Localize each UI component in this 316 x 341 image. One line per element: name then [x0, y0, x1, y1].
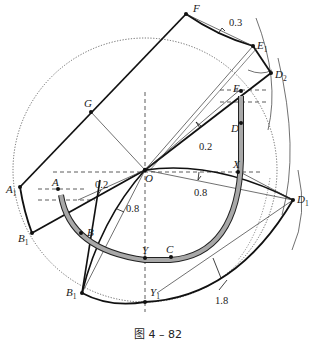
dim-leader-1-8 — [213, 258, 227, 290]
point-y1 — [143, 300, 147, 304]
label-y1: Y1 — [150, 286, 160, 301]
dim-0-2-upper: 0.2 — [199, 141, 212, 152]
line-g-o — [91, 112, 145, 170]
point-c — [169, 255, 173, 259]
point-b1-left — [30, 231, 34, 235]
label-y: Y — [142, 244, 150, 256]
line-o-d1 — [145, 170, 293, 200]
label-x: X — [232, 158, 241, 170]
dim-0-3: 0.3 — [229, 17, 242, 28]
point-e1 — [251, 44, 255, 48]
dim-leader-0-8-left — [117, 209, 124, 212]
edge-b1-o — [32, 170, 145, 233]
line-a-o — [78, 170, 145, 200]
dim-1-8: 1.8 — [215, 295, 228, 306]
outline-a1-f — [20, 14, 186, 187]
dim-0-8-left: 0.8 — [126, 203, 139, 214]
arc-near-d1 — [292, 170, 302, 250]
label-d1: D1 — [296, 193, 309, 208]
figure-caption: 图 4 – 82 — [0, 325, 316, 341]
point-f — [184, 12, 188, 16]
label-a1: A1 — [5, 183, 17, 198]
label-e: E — [232, 82, 240, 94]
point-g — [89, 110, 93, 114]
point-x — [236, 170, 240, 174]
arc-a1-b1 — [20, 187, 32, 233]
label-c: C — [166, 243, 174, 255]
point-a1 — [18, 185, 22, 189]
line-o-e — [145, 89, 241, 170]
line-o-d2 — [145, 73, 271, 170]
label-d: D — [230, 122, 239, 134]
label-b: B — [87, 226, 94, 238]
label-b1-left: B1 — [18, 232, 29, 247]
label-f: F — [192, 2, 200, 14]
label-d2: D2 — [274, 68, 287, 83]
point-b1-bottom — [80, 291, 84, 295]
point-d1 — [291, 198, 295, 202]
label-a: A — [51, 176, 59, 188]
chord-f-e1 — [186, 14, 253, 46]
geometric-construction-diagram: F E1 D2 E D G O X A1 A B1 B Y C D1 B1 Y1… — [0, 0, 316, 341]
label-g: G — [84, 97, 92, 109]
label-b1-bottom: B1 — [66, 286, 77, 301]
point-b — [79, 231, 83, 235]
point-y — [143, 256, 147, 260]
dim-leader-0-8-right — [198, 172, 201, 180]
line-y1-d1 — [157, 200, 293, 293]
dim-0-2-left: 0.2 — [95, 179, 108, 190]
point-d — [239, 121, 243, 125]
label-o: O — [145, 172, 153, 184]
point-d2 — [269, 71, 273, 75]
dim-0-8-right: 0.8 — [194, 187, 207, 198]
